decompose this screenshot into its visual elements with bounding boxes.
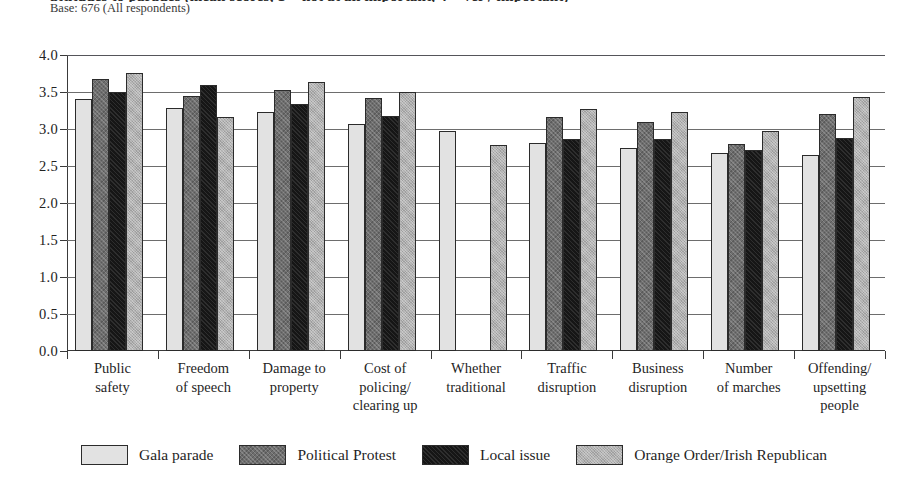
x-axis-category-label: Cost ofpolicing/clearing up — [340, 359, 431, 415]
bar-slot — [439, 55, 456, 351]
bar-slot — [620, 55, 637, 351]
bar[interactable] — [654, 139, 671, 351]
legend-item[interactable]: Orange Order/Irish Republican — [576, 445, 827, 465]
bar[interactable] — [637, 122, 654, 351]
x-axis-category-label: Trafficdisruption — [521, 359, 612, 415]
bar[interactable] — [563, 139, 580, 351]
bar[interactable] — [200, 85, 217, 351]
x-axis-category-label: Publicsafety — [67, 359, 158, 415]
x-axis-tick-mark — [521, 351, 522, 359]
bar-slot — [399, 55, 416, 351]
x-axis-category-label-line: disruption — [613, 378, 702, 397]
bar-slot — [456, 55, 473, 351]
x-axis-category-label-line: of marches — [704, 378, 793, 397]
x-axis-category-label: Businessdisruption — [612, 359, 703, 415]
base-note: Base: 676 (All respondents) — [50, 1, 190, 16]
bar-slot — [853, 55, 870, 351]
plot-area: 4.03.53.02.52.01.51.00.50.0 — [67, 55, 885, 351]
bar[interactable] — [762, 131, 779, 351]
legend-item[interactable]: Local issue — [422, 445, 550, 465]
x-axis-category-label-line: safety — [68, 378, 157, 397]
bar[interactable] — [291, 104, 308, 351]
bar-slot — [382, 55, 399, 351]
bar-slot — [637, 55, 654, 351]
x-axis-tick-mark — [249, 351, 250, 359]
x-axis-ticks — [67, 351, 885, 359]
y-axis-tick-mark — [60, 277, 67, 278]
bar-slot — [365, 55, 382, 351]
bar-group — [703, 55, 794, 351]
bar[interactable] — [853, 97, 870, 351]
bar[interactable] — [728, 144, 745, 351]
bar[interactable] — [257, 112, 274, 351]
y-axis-tick-mark — [60, 129, 67, 130]
chart-legend: Gala paradePolitical ProtestLocal issueO… — [0, 445, 908, 465]
x-axis-category-label-line: Public — [68, 359, 157, 378]
bar[interactable] — [439, 131, 456, 351]
bar-slot — [654, 55, 671, 351]
x-axis-category-label: Numberof marches — [703, 359, 794, 415]
bar[interactable] — [580, 109, 597, 351]
bar[interactable] — [382, 116, 399, 351]
x-axis-category-label-line: policing/ — [341, 378, 430, 397]
x-axis-tick-mark — [67, 351, 68, 359]
bar[interactable] — [745, 150, 762, 351]
y-axis-tick-mark — [60, 55, 67, 56]
bar[interactable] — [620, 148, 637, 352]
bar-group — [612, 55, 703, 351]
bar[interactable] — [109, 92, 126, 351]
bar[interactable] — [802, 155, 819, 351]
bar[interactable] — [92, 79, 109, 351]
bar[interactable] — [348, 124, 365, 351]
bar-slot — [217, 55, 234, 351]
bar[interactable] — [819, 114, 836, 351]
bar[interactable] — [711, 153, 728, 351]
legend-item[interactable]: Gala parade — [81, 445, 213, 465]
y-axis-tick-mark — [60, 314, 67, 315]
bar[interactable] — [183, 96, 200, 351]
bar-slot — [274, 55, 291, 351]
bar[interactable] — [671, 112, 688, 351]
y-axis-tick-mark — [60, 92, 67, 93]
bar[interactable] — [546, 117, 563, 351]
x-axis-tick-mark — [885, 351, 886, 359]
bar[interactable] — [166, 108, 183, 351]
bar[interactable] — [399, 92, 416, 351]
x-axis-tick-mark — [431, 351, 432, 359]
y-axis-tick-mark — [60, 240, 67, 241]
bar-slot — [745, 55, 762, 351]
x-axis-category-label-line: Damage to — [250, 359, 339, 378]
bar[interactable] — [75, 99, 92, 351]
bar-slot — [92, 55, 109, 351]
bar[interactable] — [529, 143, 546, 351]
bar-slot — [109, 55, 126, 351]
x-axis-category-label-line: people — [795, 396, 884, 415]
bar[interactable] — [490, 145, 507, 351]
bar-slot — [183, 55, 200, 351]
bar-slot — [473, 55, 490, 351]
bar-group — [794, 55, 885, 351]
bar[interactable] — [274, 90, 291, 351]
x-axis-tick-mark — [612, 351, 613, 359]
x-axis-tick-mark — [158, 351, 159, 359]
bar-slot — [546, 55, 563, 351]
bar-slot — [529, 55, 546, 351]
x-axis-category-label-line: Number — [704, 359, 793, 378]
bar-slot — [291, 55, 308, 351]
bar[interactable] — [836, 138, 853, 351]
bar-slot — [257, 55, 274, 351]
bar-slot — [802, 55, 819, 351]
x-axis-tick-mark — [703, 351, 704, 359]
x-axis-category-label-line: Business — [613, 359, 702, 378]
x-axis-labels: PublicsafetyFreedomof speechDamage topro… — [67, 359, 885, 415]
bar-slot — [75, 55, 92, 351]
bar-group — [158, 55, 249, 351]
bar[interactable] — [126, 73, 143, 351]
bar[interactable] — [217, 117, 234, 351]
bar[interactable] — [365, 98, 382, 351]
x-axis-category-label-line: of speech — [159, 378, 248, 397]
y-axis-tick-mark — [60, 166, 67, 167]
bar[interactable] — [308, 82, 325, 351]
bar-group — [249, 55, 340, 351]
legend-item[interactable]: Political Protest — [239, 445, 396, 465]
